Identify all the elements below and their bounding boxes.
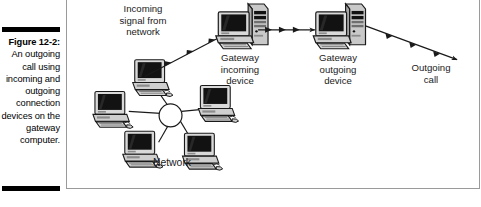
caption-rule-bottom [2, 186, 60, 191]
figure-caption: Figure 12-2: An outgoing call using inco… [0, 36, 60, 147]
figure-number-label: Figure 12-2: [0, 36, 60, 48]
network-computer-icon [198, 86, 238, 123]
label-outgoing-call: Outgoing call [389, 62, 473, 85]
label-incoming-signal: Incoming signal from network [97, 3, 189, 38]
figure-caption-text: An outgoing call using incoming and outg… [0, 48, 60, 146]
label-gateway-outgoing-device: Gateway outgoing device [293, 52, 383, 87]
label-gateway-incoming-device: Gateway incoming device [195, 52, 285, 87]
network-computer-icon [93, 92, 133, 129]
connector-gateway-incoming-to-outgoing [258, 27, 315, 33]
gateway-incoming-device-icon [216, 4, 268, 49]
figure-frame: Incoming signal from network Gateway inc… [66, 0, 480, 189]
caption-rule-top [2, 27, 60, 32]
figure-caption-column: Figure 12-2: An outgoing call using inco… [0, 0, 62, 207]
gateway-outgoing-device-icon [313, 4, 365, 49]
label-network: Network [127, 157, 217, 169]
network-hub-icon [159, 104, 182, 127]
